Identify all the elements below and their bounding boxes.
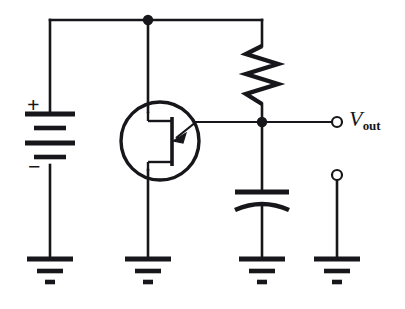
ground-symbols xyxy=(27,259,360,282)
vout-terminal-circle[interactable] xyxy=(332,117,342,127)
junction-supply-node xyxy=(143,15,153,25)
ground-transistor xyxy=(125,259,171,282)
transistor-symbol xyxy=(121,102,199,180)
junction-output-node xyxy=(257,117,267,127)
resistor-symbol xyxy=(246,46,278,104)
battery-minus-label: − xyxy=(28,156,41,178)
vout-label: Vout xyxy=(349,106,380,132)
vout-subscript: out xyxy=(363,118,381,133)
ground-capacitor xyxy=(239,259,285,282)
vout-symbol: V xyxy=(349,106,363,131)
battery-symbol xyxy=(25,114,75,157)
ground-battery xyxy=(27,259,73,282)
battery-plus-label: + xyxy=(27,94,40,116)
ground-reference xyxy=(314,259,360,282)
resistor-zigzag xyxy=(246,46,278,104)
circuit-diagram xyxy=(0,0,405,309)
transistor-envelope-circle xyxy=(121,102,199,180)
transistor-gate-shaft xyxy=(176,122,196,138)
reference-terminal-circle[interactable] xyxy=(332,170,342,180)
schematic-canvas: + − Vout xyxy=(0,0,405,309)
